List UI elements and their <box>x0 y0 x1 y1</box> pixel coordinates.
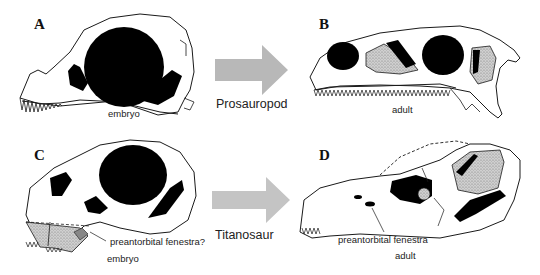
arrow-label-titanosaur: Titanosaur <box>215 228 274 242</box>
annotation-d-preantorbital-fenestra: preantorbital fenestra <box>338 234 428 245</box>
figure: A B C D embryo adult embryo adult preant… <box>0 0 540 275</box>
annotation-c-preantorbital-fenestra: preantorbital fenestra? <box>110 236 205 247</box>
arrow-label-prosauropod: Prosauropod <box>216 97 288 111</box>
arrow-prosauropod <box>215 45 288 95</box>
panel-letter-b: B <box>319 16 329 33</box>
skull-d-adult <box>300 141 520 238</box>
panel-letter-a: A <box>34 16 45 33</box>
caption-b-adult: adult <box>392 104 413 115</box>
caption-d-adult: adult <box>395 250 416 261</box>
caption-a-embryo: embryo <box>108 108 140 119</box>
caption-c-embryo: embryo <box>107 253 139 264</box>
skull-b-adult <box>310 26 520 118</box>
arrow-titanosaur <box>212 177 290 223</box>
panel-letter-c: C <box>34 147 45 164</box>
panel-letter-d: D <box>319 147 330 164</box>
skull-a-embryo <box>20 14 194 115</box>
